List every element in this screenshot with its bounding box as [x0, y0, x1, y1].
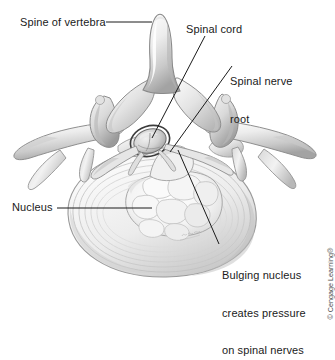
label-bulging-nucleus: Bulging nucleus creates pressure on spin… [222, 244, 306, 360]
label-nucleus: Nucleus [12, 201, 53, 214]
label-bulging-line1: Bulging nucleus [222, 269, 306, 282]
label-bulging-line2: creates pressure [222, 307, 306, 320]
label-spinal-nerve-root: Spinal nerve root [230, 50, 292, 150]
label-spine-of-vertebra: Spine of vertebra [20, 16, 106, 29]
label-spinal-cord: Spinal cord [186, 23, 242, 36]
label-spinal-nerve-root-line2: root [230, 113, 292, 126]
label-spinal-nerve-root-line1: Spinal nerve [230, 75, 292, 88]
copyright-notice: © Cengage Learning® [326, 248, 335, 320]
label-bulging-line3: on spinal nerves [222, 344, 306, 357]
